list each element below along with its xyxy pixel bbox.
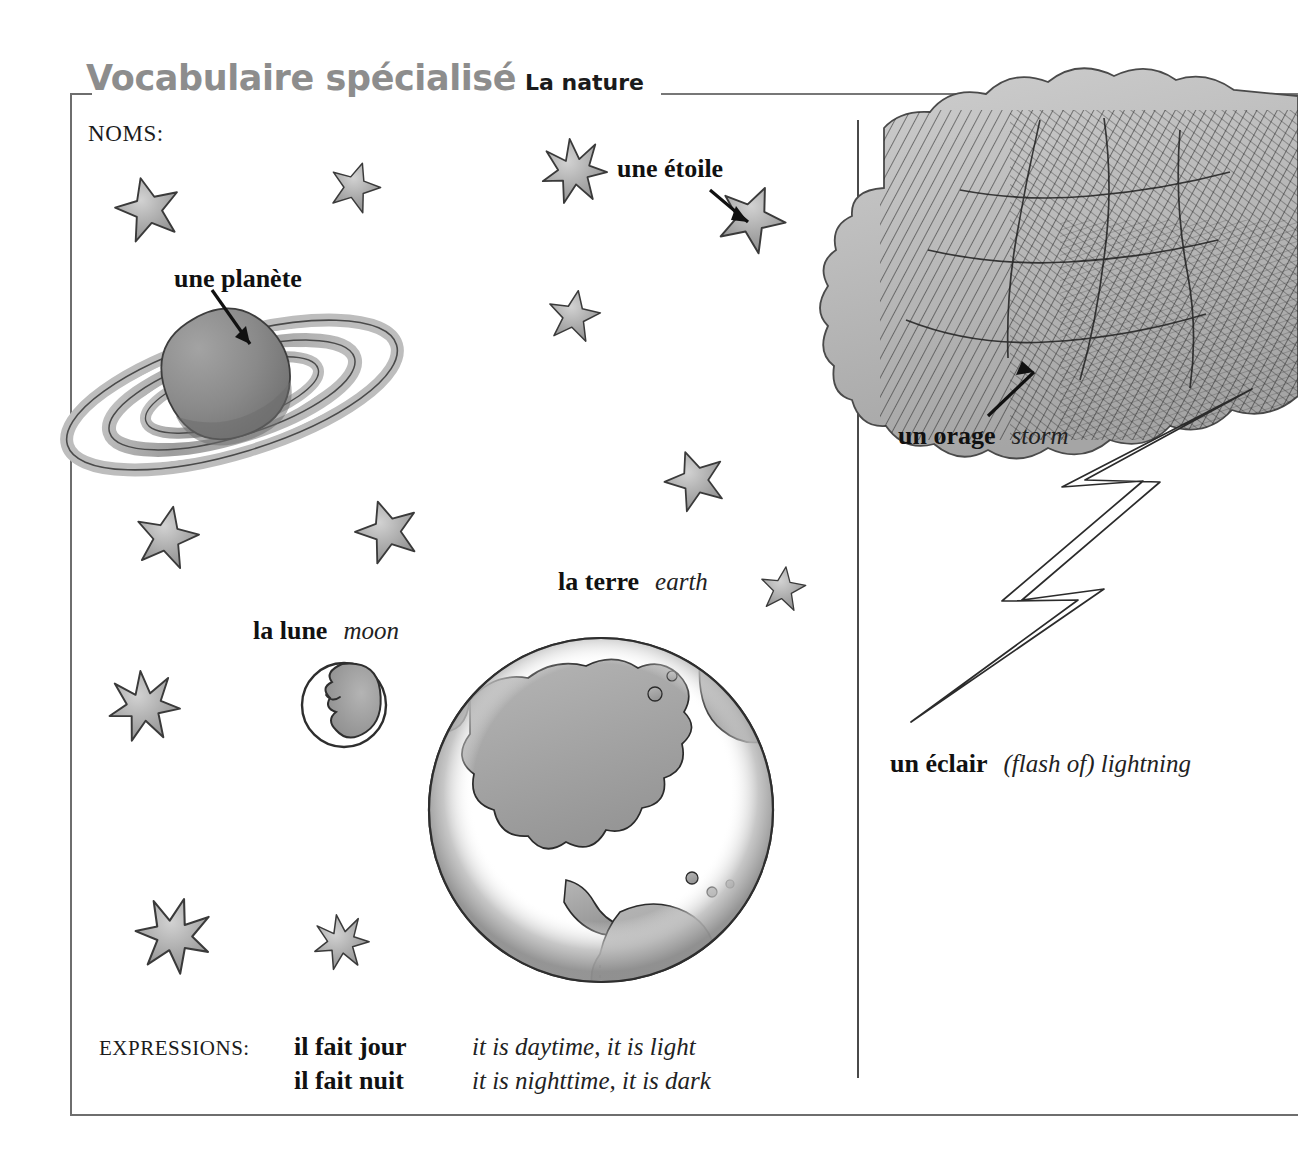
vocab-english-eclair: (flash of) lightning [1004,750,1192,777]
vocab-label-terre: la terreearth [558,569,708,595]
vocab-english-lune: moon [343,617,399,644]
vocab-label-planete: une planète [174,266,302,292]
vocab-french-lune: la lune [253,616,327,645]
crescent-moon-face-illustration [302,663,386,747]
vocab-french-eclair: un éclair [890,749,988,778]
nouns-section-label: NOMS: [88,122,164,145]
earth-globe-americas-illustration [410,638,806,1082]
page-subtitle: La nature [525,70,644,95]
storm-cloud-illustration [820,68,1298,458]
frame-top-stub [70,93,92,95]
saturn-planet-illustration [42,262,413,501]
vocab-label-eclair: un éclair(flash of) lightning [890,751,1191,777]
vocab-label-etoile: une étoile [617,156,723,182]
expression-english-0: it is daytime, it is light [464,1033,711,1061]
column-divider [857,120,859,1078]
expression-french-0: il fait jour [294,1032,464,1062]
expressions-section-label: EXPRESSIONS: [99,1036,294,1061]
arrow-to-star [710,190,748,222]
frame-left-border [70,93,72,1116]
vocab-label-orage: un oragestorm [898,423,1068,449]
star-illustration-group [105,134,808,979]
expression-english-1: it is nighttime, it is dark [464,1067,711,1095]
vocab-english-terre: earth [655,568,708,595]
vocab-english-orage: storm [1012,422,1069,449]
frame-bottom-border [70,1114,1298,1116]
expressions-block: EXPRESSIONS: il fait jour it is daytime,… [99,1032,711,1096]
expression-french-1: il fait nuit [294,1066,464,1096]
arrow-to-storm-cloud [988,361,1034,416]
vocab-french-terre: la terre [558,567,639,596]
page-title: Vocabulaire spécialisé [86,58,516,98]
vocab-label-lune: la lunemoon [253,618,399,644]
page-header: Vocabulaire spécialisé La nature [0,0,1298,110]
header-rule [661,93,1298,95]
vocab-french-orage: un orage [898,421,996,450]
arrow-to-planet [212,290,250,344]
